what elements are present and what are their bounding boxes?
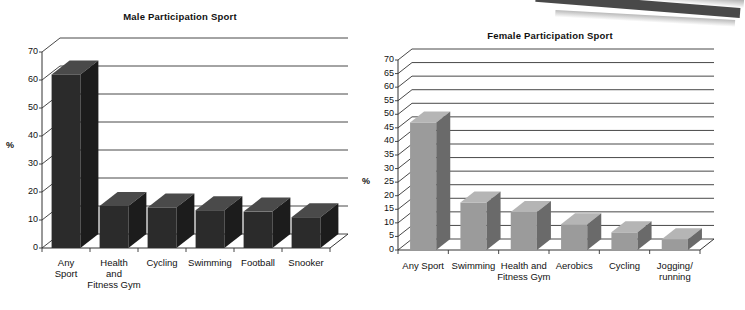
bar <box>410 111 450 250</box>
y-tick-label: 40 <box>354 136 394 145</box>
y-tick-label: 40 <box>0 131 38 140</box>
y-tick-label: 10 <box>354 218 394 227</box>
y-tick-label: 5 <box>354 231 394 240</box>
y-tick-label: 65 <box>354 69 394 78</box>
bar <box>511 201 551 250</box>
bar <box>561 213 601 250</box>
y-tick-label: 70 <box>0 47 38 56</box>
bar <box>460 192 500 251</box>
x-category-label: Jogging/ running <box>644 260 706 282</box>
y-tick-label: 20 <box>354 191 394 200</box>
bar <box>292 203 339 248</box>
bar <box>196 196 243 248</box>
y-tick-label: 15 <box>354 204 394 213</box>
chart-male-participation-sport: Male Participation Sport % 0102030405060… <box>0 0 368 310</box>
bar <box>662 228 702 250</box>
chart-female-participation-sport: Female Participation Sport % 05101520253… <box>360 0 735 310</box>
x-category-label: Snooker <box>276 257 336 268</box>
bar <box>100 192 147 248</box>
y-tick-label: 30 <box>0 159 38 168</box>
y-tick-label: 35 <box>354 150 394 159</box>
y-tick-label: 10 <box>0 215 38 224</box>
y-tick-label: 70 <box>354 55 394 64</box>
y-tick-label: 50 <box>0 103 38 112</box>
y-tick-label: 0 <box>0 243 38 252</box>
y-tick-label: 45 <box>354 123 394 132</box>
y-tick-label: 30 <box>354 164 394 173</box>
bar <box>148 193 195 248</box>
y-tick-label: 55 <box>354 96 394 105</box>
y-tick-label: 20 <box>0 187 38 196</box>
y-tick-label: 0 <box>354 245 394 254</box>
y-tick-label: 25 <box>354 177 394 186</box>
bar <box>52 60 99 248</box>
y-tick-label: 50 <box>354 109 394 118</box>
y-tick-label: 60 <box>354 82 394 91</box>
bar <box>244 198 291 248</box>
y-tick-label: 60 <box>0 75 38 84</box>
